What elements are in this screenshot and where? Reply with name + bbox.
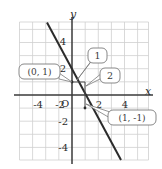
coordinate-plane-svg: -4 -2 2 4 4 2 -2 -4 O x y (0, 1) 1 [0,0,162,169]
x-tick-4: 4 [122,99,128,110]
plotted-line [47,23,121,161]
callout-label-point-second: (1, -1) [118,113,145,123]
y-tick-2: 2 [60,63,66,74]
point-marker-1-neg1 [84,107,87,110]
origin-label: O [61,98,69,109]
y-tick-4: 4 [60,36,66,47]
callout-label-run: 1 [94,50,100,61]
y-tick--4: -4 [58,142,68,153]
x-axis-label: x [145,85,152,98]
callout-tail-run [77,60,92,80]
y-tick--2: -2 [58,116,68,127]
x-tick--4: -4 [33,99,43,110]
callout-label-point-origin: (0, 1) [27,67,51,77]
y-axis-label: y [69,8,77,21]
graph-figure: -4 -2 2 4 4 2 -2 -4 O x y (0, 1) 1 [0,0,162,169]
callout-label-rise: 2 [107,70,113,81]
callout-tail-point-origin [59,73,72,82]
callout-rise[interactable]: 2 [86,68,120,86]
